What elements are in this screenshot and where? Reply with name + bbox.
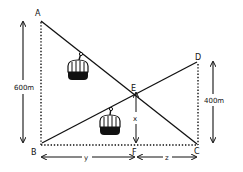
label-point-f: F	[132, 148, 137, 157]
cable-car-upper-icon	[68, 52, 88, 80]
cable-car-diagram: 600m 400m x y z A B C D E F	[0, 0, 243, 172]
label-point-e: E	[131, 84, 136, 93]
label-point-d: D	[195, 53, 201, 62]
label-z: z	[165, 154, 169, 162]
label-point-a: A	[35, 9, 41, 18]
diagram-svg: 600m 400m x y z A B C D E F	[0, 0, 243, 172]
label-y: y	[84, 154, 88, 162]
label-point-c: C	[194, 147, 200, 156]
label-x: x	[133, 115, 137, 123]
label-point-b: B	[31, 148, 37, 157]
label-400m: 400m	[204, 97, 224, 105]
label-600m: 600m	[14, 84, 34, 92]
